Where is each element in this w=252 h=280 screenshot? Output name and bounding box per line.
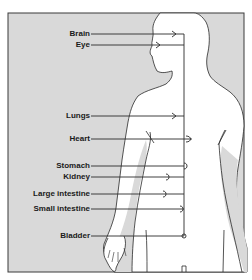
body-diagram: Brain Eye Lungs Heart Stomach Kidney Lar… [0, 0, 252, 280]
label-brain: Brain [70, 29, 90, 38]
label-eye: Eye [76, 40, 90, 49]
label-kidney: Kidney [63, 172, 90, 181]
label-lungs: Lungs [66, 111, 90, 120]
label-heart: Heart [70, 134, 90, 143]
label-bladder: Bladder [60, 231, 90, 240]
label-small-intestine: Small intestine [34, 204, 90, 213]
body-illustration [0, 0, 252, 280]
label-stomach: Stomach [56, 161, 90, 170]
label-large-intestine: Large intestine [33, 189, 90, 198]
